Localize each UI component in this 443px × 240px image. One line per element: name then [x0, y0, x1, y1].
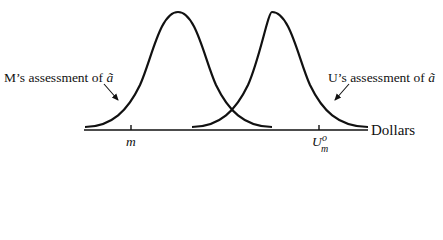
m-assessment-label: M’s assessment of ã — [4, 71, 113, 85]
u-assessment-text: U’s assessment of — [328, 70, 428, 85]
a-tilde-variable: ã — [428, 70, 435, 85]
tick-label-m: m — [126, 135, 136, 149]
subscript-m: m — [321, 144, 328, 154]
tick-label-u-m-o: U o m — [312, 133, 342, 153]
superscript-o: o — [322, 133, 327, 143]
u-assessment-label: U’s assessment of ã — [328, 71, 435, 85]
m-assessment-text: M’s assessment of — [4, 70, 106, 85]
m-label-arrow — [104, 84, 118, 100]
dollars-axis-label: Dollars — [371, 123, 415, 138]
u-label-arrow — [335, 84, 349, 100]
a-tilde-variable: ã — [106, 70, 113, 85]
